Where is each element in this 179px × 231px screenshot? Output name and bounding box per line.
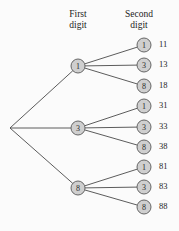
node-first-digit-1-1[interactable]: 1 (71, 59, 85, 73)
node-second-digit-3-5[interactable]: 3 (137, 120, 151, 134)
edge-first-3-to-second-3 (85, 190, 138, 205)
node-second-digit-1-1[interactable]: 1 (137, 38, 151, 52)
node-second-digit-1-7-label: 1 (142, 163, 146, 172)
outcome-label-33: 33 (159, 122, 168, 131)
node-first-digit-8-3[interactable]: 8 (71, 181, 85, 195)
node-second-digit-1-7[interactable]: 1 (137, 160, 151, 174)
outcome-label-18: 18 (159, 81, 168, 90)
outcome-label-11: 11 (159, 40, 167, 49)
edge-first-3-to-second-2 (85, 187, 137, 188)
edge-first-2-to-second-1 (85, 108, 138, 126)
outcome-label-13: 13 (159, 60, 168, 69)
node-first-digit-3-2-label: 3 (76, 124, 80, 133)
edge-first-2-to-second-2 (85, 127, 137, 128)
node-first-digit-3-2[interactable]: 3 (71, 121, 85, 135)
node-second-digit-3-2-label: 3 (142, 61, 146, 70)
edge-first-2-to-second-3 (85, 130, 138, 145)
outcome-label-38: 38 (159, 142, 168, 151)
node-second-digit-8-3-label: 8 (142, 82, 146, 91)
node-second-digit-1-4[interactable]: 1 (137, 99, 151, 113)
node-second-digit-3-8-label: 3 (142, 183, 146, 192)
node-second-digit-8-6-label: 8 (142, 143, 146, 152)
edge-first-1-to-second-3 (85, 68, 138, 84)
node-second-digit-8-3[interactable]: 8 (137, 79, 151, 93)
node-second-digit-3-5-label: 3 (142, 123, 146, 132)
edge-first-1-to-second-2 (85, 65, 137, 66)
node-second-digit-8-6[interactable]: 8 (137, 140, 151, 154)
node-second-digit-1-1-label: 1 (142, 41, 146, 50)
outcome-label-31: 31 (159, 101, 168, 110)
node-second-digit-8-9[interactable]: 8 (137, 200, 151, 214)
tree-svg-canvas: 138138138138 (0, 0, 179, 231)
outcome-label-88: 88 (159, 202, 168, 211)
outcome-label-83: 83 (159, 182, 168, 191)
node-first-digit-8-3-label: 8 (76, 184, 80, 193)
tree-diagram: First digit Second digit 138138138138 11… (0, 0, 179, 231)
outcome-label-81: 81 (159, 162, 168, 171)
node-first-digit-1-1-label: 1 (76, 62, 80, 71)
edge-first-1-to-second-1 (85, 47, 138, 64)
node-second-digit-3-8[interactable]: 3 (137, 180, 151, 194)
node-second-digit-8-9-label: 8 (142, 203, 146, 212)
edge-root-to-first-3 (10, 128, 73, 183)
edge-first-3-to-second-1 (85, 169, 138, 186)
node-second-digit-1-4-label: 1 (142, 102, 146, 111)
node-second-digit-3-2[interactable]: 3 (137, 58, 151, 72)
edge-root-to-first-1 (10, 71, 73, 128)
